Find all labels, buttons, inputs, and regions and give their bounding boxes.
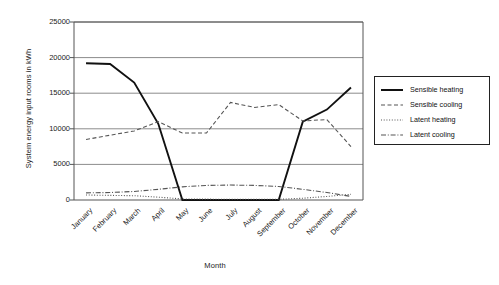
legend-item: Latent heating — [380, 112, 485, 127]
legend-key-icon — [380, 115, 404, 125]
x-axis-title: Month — [0, 261, 430, 270]
legend-key-icon — [380, 85, 404, 95]
legend-item-label: Latent heating — [410, 115, 456, 124]
chart-legend: Sensible heatingSensible coolingLatent h… — [374, 76, 490, 145]
legend-item: Sensible heating — [380, 82, 485, 97]
legend-item: Latent cooling — [380, 127, 485, 142]
y-axis-title: System energy input rooms in kWh — [24, 19, 33, 199]
legend-item: Sensible cooling — [380, 97, 485, 112]
energy-line-chart: 0500010000150002000025000 JanuaryFebruar… — [0, 0, 499, 285]
legend-key-icon — [380, 130, 404, 140]
legend-item-label: Sensible cooling — [410, 100, 462, 109]
legend-key-icon — [380, 100, 404, 110]
legend-item-label: Latent cooling — [410, 130, 455, 139]
legend-item-label: Sensible heating — [410, 85, 463, 94]
